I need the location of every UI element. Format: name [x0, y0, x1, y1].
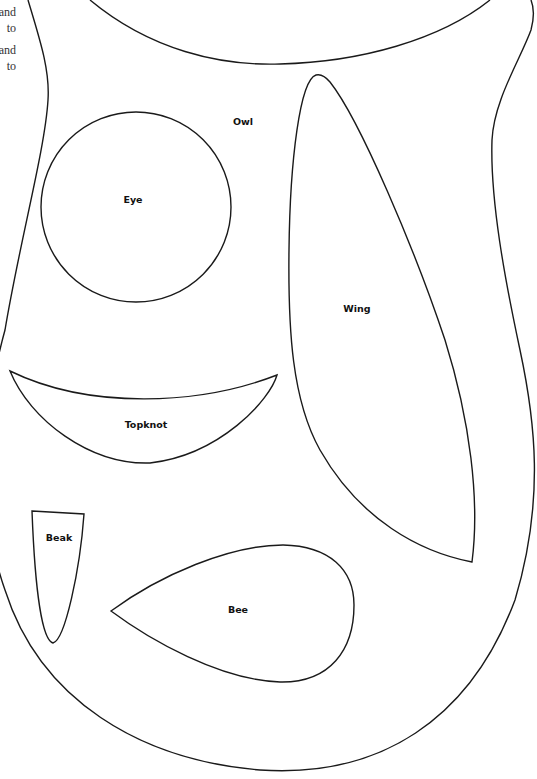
head-outline [90, 0, 490, 64]
template-page: and to and to Owl Eye Wing Topknot Beak … [0, 0, 537, 779]
eye-outline [41, 112, 231, 302]
body-outline [0, 0, 534, 771]
pattern-shapes [0, 0, 537, 779]
bee-label: Bee [228, 604, 248, 615]
topknot-outline [10, 371, 277, 463]
wing-outline [289, 75, 475, 562]
topknot-label: Topknot [125, 419, 168, 430]
wing-label: Wing [343, 303, 370, 314]
beak-label: Beak [46, 532, 72, 543]
owl-label: Owl [233, 116, 253, 127]
eye-label: Eye [123, 194, 142, 205]
